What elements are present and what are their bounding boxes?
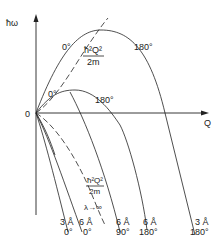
branch-3a-0deg xyxy=(36,113,68,232)
free-particle-lower-denominator: 2m xyxy=(89,187,100,196)
svg-text:3 Å: 3 Å xyxy=(60,217,74,227)
free-particle-lower-numerator: ħ²Q² xyxy=(87,176,103,185)
scattering-kinematics-diagram: ħω Q 0 0° 180° ħ²Q² 2m 0° 180° ħ²Q² 2m λ… xyxy=(0,0,222,245)
y-axis-label: ħω xyxy=(6,18,18,28)
svg-text:0°: 0° xyxy=(83,227,92,237)
free-particle-upper-denominator: 2m xyxy=(87,57,100,67)
y-axis-arrow-icon xyxy=(34,14,39,22)
origin-label: 0 xyxy=(25,109,30,119)
bottom-label-1: 3 Å 0° xyxy=(60,217,74,237)
svg-text:0°: 0° xyxy=(64,227,73,237)
bottom-label-4: 6 Å 180° xyxy=(139,217,158,237)
upper-curve-right-label: 180° xyxy=(134,42,153,52)
x-axis-arrow-icon xyxy=(201,111,209,116)
middle-curve-left-label: 0° xyxy=(48,89,57,99)
upper-curve-left-label: 0° xyxy=(62,42,71,52)
svg-text:6 Å: 6 Å xyxy=(79,217,93,227)
bottom-label-3: 6 Å 90° xyxy=(116,217,130,237)
limit-label: λ→∞ xyxy=(84,203,102,212)
bottom-label-5: 3 Å 180° xyxy=(190,217,209,237)
svg-text:6 Å: 6 Å xyxy=(116,217,130,227)
svg-text:180°: 180° xyxy=(190,227,209,237)
svg-text:6 Å: 6 Å xyxy=(143,217,157,227)
x-axis-label: Q xyxy=(204,118,211,128)
curve-3a xyxy=(36,30,195,235)
svg-text:3 Å: 3 Å xyxy=(195,217,209,227)
branch-6a-0deg xyxy=(36,113,82,232)
svg-text:90°: 90° xyxy=(116,227,130,237)
free-particle-upper-numerator: ħ²Q² xyxy=(84,45,102,55)
bottom-label-2: 6 Å 0° xyxy=(79,217,93,237)
middle-curve-right-label: 180° xyxy=(95,95,114,105)
svg-text:180°: 180° xyxy=(139,227,158,237)
